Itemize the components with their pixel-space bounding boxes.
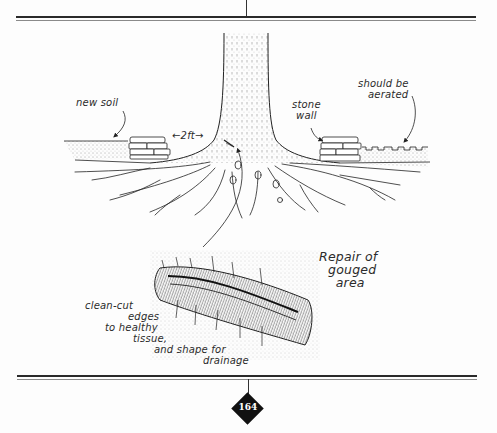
page-number: 164 <box>230 402 266 412</box>
label-aerated-line2: aerated <box>358 89 409 100</box>
footer-rule <box>17 375 477 377</box>
label-new-soil: new soil <box>76 97 118 108</box>
label-clean-cut-line6: drainage <box>85 355 249 366</box>
label-clean-cut-edges: clean-cut edges to healthy tissue, and s… <box>85 300 249 366</box>
book-page: new soil ←2ft→ stone wall should be aera… <box>0 0 497 433</box>
label-aerated-line1: should be <box>358 78 409 89</box>
label-clean-cut-line2: edges <box>85 311 249 322</box>
label-stone-wall: stone wall <box>292 99 321 121</box>
label-stone-wall-line2: wall <box>292 110 321 121</box>
label-clean-cut-line4: tissue, <box>85 333 249 344</box>
new-soil-mound <box>64 141 128 160</box>
stone-wall-right <box>320 137 361 161</box>
label-clean-cut-line3: to healthy <box>85 322 249 333</box>
figure-title: Repair of gouged area <box>319 250 377 289</box>
footer-rule-secondary <box>17 379 477 380</box>
label-should-be-aerated: should be aerated <box>358 78 409 100</box>
label-clean-cut-line5: and shape for <box>85 344 249 355</box>
tree-root-illustration <box>0 0 497 433</box>
compacted-soil-mound <box>358 147 428 167</box>
label-stone-wall-line1: stone <box>292 99 321 110</box>
label-distance-2ft: ←2ft→ <box>172 130 204 141</box>
tree-roots <box>75 161 420 218</box>
stone-wall-left <box>129 137 170 159</box>
tree-trunk <box>150 33 340 163</box>
label-clean-cut-line1: clean-cut <box>85 300 249 311</box>
figure-title-line3: area <box>319 276 377 289</box>
